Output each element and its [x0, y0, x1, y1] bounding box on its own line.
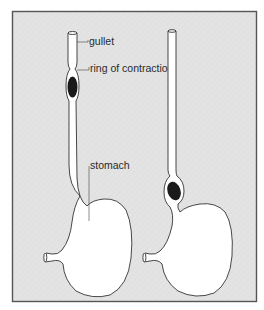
- right-pylorus-opening: [143, 253, 146, 262]
- gullet-label: gullet: [89, 35, 114, 47]
- stomach-label: stomach: [90, 159, 130, 171]
- right-gullet-opening: [168, 30, 176, 33]
- left-pylorus-opening: [44, 253, 47, 262]
- left-gullet-opening: [68, 32, 77, 35]
- left-bolus: [68, 77, 78, 98]
- digestion-diagram: gullet ring of contraction stomach: [0, 0, 264, 310]
- ring-of-contraction-label: ring of contraction: [90, 62, 174, 74]
